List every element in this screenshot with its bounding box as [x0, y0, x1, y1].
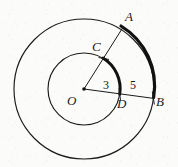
inner-radius-measure-label: 3 [103, 79, 109, 91]
point-label-a: A [125, 10, 133, 23]
outer-radius-measure-label: 5 [130, 79, 136, 91]
figure-canvas [0, 0, 178, 167]
point-label-d: D [117, 97, 126, 110]
geometry-figure: A B C D O 3 5 [0, 0, 178, 167]
point-label-b: B [156, 95, 164, 108]
arc-AB [121, 26, 155, 98]
point-label-o: O [67, 94, 76, 107]
point-label-c: C [92, 40, 101, 53]
center-point-o [82, 87, 86, 91]
